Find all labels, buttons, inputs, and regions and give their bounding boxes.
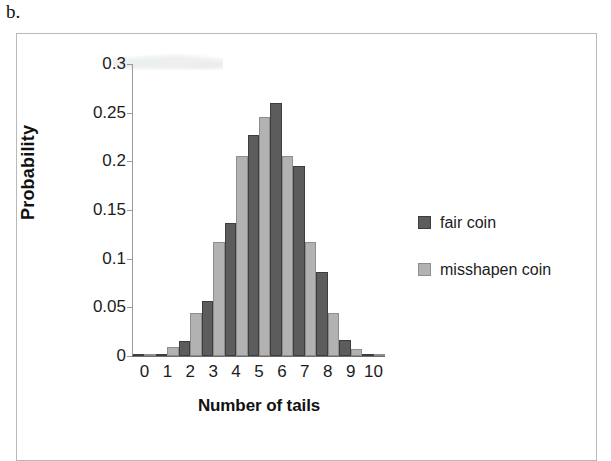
- x-axis-tick-label: 10: [358, 362, 389, 381]
- bar-fair-coin-2: [179, 341, 190, 356]
- bar-misshapen-coin-2: [190, 313, 201, 356]
- legend-label: fair coin: [440, 214, 496, 231]
- y-axis-tick: [127, 259, 132, 260]
- y-axis-tick: [127, 210, 132, 211]
- figure-root: b. Probability 0.30.250.20.150.10.050 01…: [0, 0, 611, 461]
- bar-misshapen-coin-1: [167, 347, 178, 356]
- bar-fair-coin-4: [225, 223, 236, 356]
- bar-misshapen-coin-6: [282, 156, 293, 356]
- bar-misshapen-coin-7: [305, 242, 316, 356]
- y-axis-tick-label: 0.3: [102, 55, 126, 72]
- bar-fair-coin-6: [270, 103, 281, 356]
- bar-misshapen-coin-3: [213, 242, 224, 356]
- legend-label: misshapen coin: [440, 261, 551, 278]
- bar-misshapen-coin-4: [236, 156, 247, 356]
- y-axis-tick-label: 0.05: [93, 298, 126, 315]
- bar-fair-coin-9: [339, 340, 350, 356]
- y-axis-tick: [127, 64, 132, 65]
- bar-fair-coin-7: [293, 166, 304, 356]
- legend-swatch-misshapen-coin: [418, 263, 431, 276]
- y-axis-tick-label: 0.1: [102, 250, 126, 267]
- bar-fair-coin-3: [202, 301, 213, 356]
- bar-misshapen-coin-8: [328, 313, 339, 356]
- y-axis-tick: [127, 307, 132, 308]
- bar-misshapen-coin-5: [259, 117, 270, 356]
- x-axis-title: Number of tails: [133, 396, 385, 416]
- legend-item-misshapen-coin: misshapen coin: [418, 261, 578, 278]
- y-axis-tick: [127, 356, 132, 357]
- panel-letter: b.: [6, 2, 20, 21]
- y-axis-tick: [127, 113, 132, 114]
- y-axis-tick-labels: 0.30.250.20.150.10.050: [56, 64, 126, 356]
- bar-fair-coin-1: [156, 354, 167, 356]
- y-axis-tick-label: 0.2: [102, 152, 126, 169]
- y-axis-tick: [127, 161, 132, 162]
- y-axis-title: Probability: [18, 40, 39, 220]
- bars-layer: [133, 64, 385, 356]
- bar-fair-coin-10: [362, 354, 373, 356]
- bar-misshapen-coin-0: [144, 354, 155, 356]
- bar-fair-coin-5: [248, 135, 259, 356]
- y-axis-tick-label: 0.15: [93, 201, 126, 218]
- plot-area: [132, 64, 385, 356]
- x-axis-tick-labels: 012345678910: [133, 362, 385, 386]
- bar-misshapen-coin-9: [351, 349, 362, 356]
- chart-legend: fair coinmisshapen coin: [418, 214, 578, 308]
- legend-swatch-fair-coin: [418, 216, 431, 229]
- y-axis-tick-label: 0: [117, 347, 126, 364]
- bar-misshapen-coin-10: [374, 354, 385, 356]
- y-axis-tick-label: 0.25: [93, 104, 126, 121]
- legend-item-fair-coin: fair coin: [418, 214, 578, 231]
- bar-fair-coin-8: [316, 272, 327, 356]
- bar-fair-coin-0: [133, 354, 144, 356]
